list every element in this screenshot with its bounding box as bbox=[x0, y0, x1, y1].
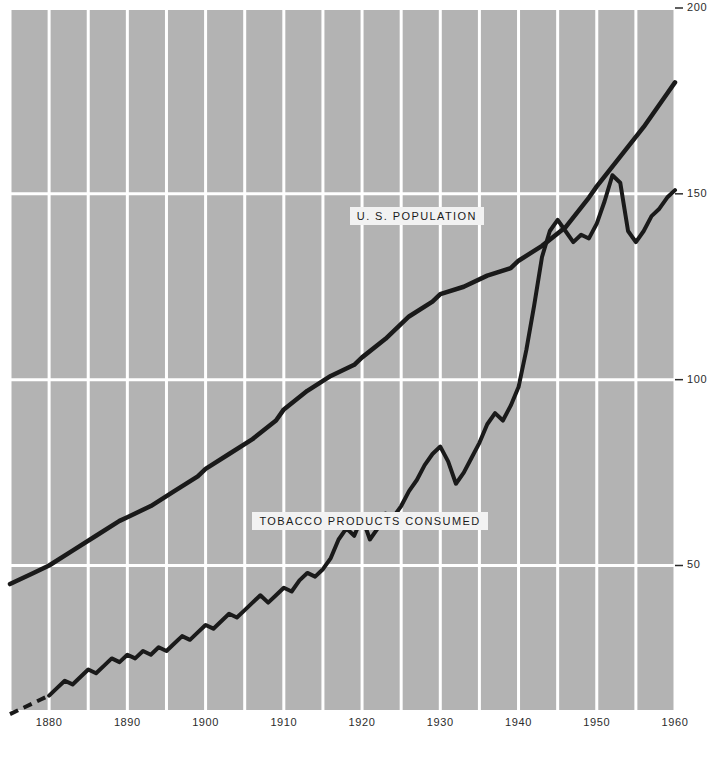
y-tick-label-150: 150 bbox=[687, 187, 707, 199]
x-tick-label-1880: 1880 bbox=[36, 716, 63, 728]
series-label-population: U. S. POPULATION bbox=[350, 207, 484, 225]
series-label-tobacco: TOBACCO PRODUCTS CONSUMED bbox=[252, 512, 487, 530]
y-tick-label-50: 50 bbox=[687, 558, 700, 570]
plot-background bbox=[10, 10, 675, 710]
x-tick-label-1940: 1940 bbox=[505, 716, 532, 728]
x-tick-label-1960: 1960 bbox=[662, 716, 689, 728]
x-tick-label-1900: 1900 bbox=[192, 716, 219, 728]
y-tick-label-200: 200 bbox=[687, 1, 707, 13]
x-tick-label-1910: 1910 bbox=[270, 716, 297, 728]
y-tick-label-100: 100 bbox=[687, 373, 707, 385]
x-tick-label-1920: 1920 bbox=[349, 716, 376, 728]
x-tick-label-1930: 1930 bbox=[427, 716, 454, 728]
x-tick-label-1890: 1890 bbox=[114, 716, 141, 728]
x-tick-label-1950: 1950 bbox=[583, 716, 610, 728]
